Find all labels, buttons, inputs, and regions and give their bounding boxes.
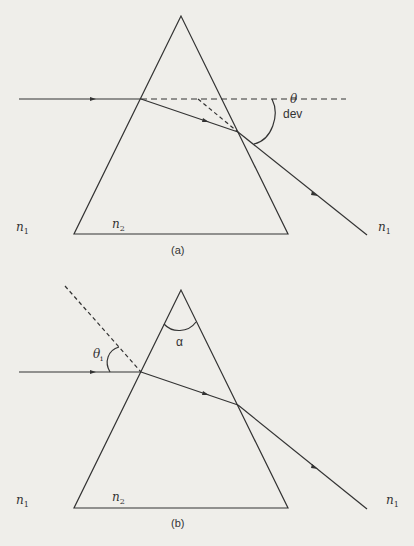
prism-refraction-diagram: θ dev n1 n2 n1 (a) θi α n1 n2 n1 (b): [0, 0, 414, 546]
prism-a: [74, 16, 288, 234]
internal-ray-a: [141, 99, 238, 132]
caption-a: (a): [171, 244, 184, 256]
arrowheads-b: [90, 370, 318, 469]
n2-label-b: n2: [112, 490, 125, 506]
theta-i-label: θi: [93, 347, 103, 363]
n1-right-b: n1: [386, 493, 399, 509]
incidence-angle-arc: [107, 347, 119, 372]
caption-b: (b): [171, 517, 184, 529]
deviation-arc: [254, 99, 275, 144]
emergent-ray-b: [238, 405, 367, 509]
prism-b: [74, 290, 288, 508]
figure-a: [19, 16, 367, 235]
figure-b: [19, 286, 367, 509]
dashed-normal-b: [65, 286, 141, 372]
dev-label: dev: [283, 107, 302, 121]
n1-left-b: n1: [16, 493, 29, 509]
n1-left-a: n1: [16, 220, 29, 236]
alpha-label: α: [176, 335, 183, 349]
apex-angle-arc: [164, 322, 196, 331]
theta-label-a: θ: [290, 92, 298, 106]
emergent-ray-a: [238, 132, 367, 235]
n1-right-a: n1: [378, 220, 391, 236]
n2-label-a: n2: [112, 217, 125, 233]
dashed-normal-a: [198, 99, 238, 132]
